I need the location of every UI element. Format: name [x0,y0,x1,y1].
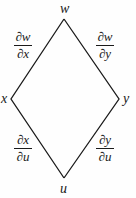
numerator: ∂w [15,30,30,43]
edge-label-dw-dx: ∂w ∂x [14,30,32,60]
denominator: ∂u [99,150,112,163]
node-w: w [60,2,69,16]
edge-label-dy-du: ∂y ∂u [96,133,114,163]
node-x: x [1,92,7,106]
denominator: ∂y [99,47,111,60]
edge-label-dx-du: ∂x ∂u [14,133,32,163]
numerator: ∂x [17,133,29,146]
node-u: u [60,182,67,196]
denominator: ∂x [17,47,29,60]
numerator: ∂w [97,30,112,43]
numerator: ∂y [99,133,111,146]
edge-label-dw-dy: ∂w ∂y [96,30,114,60]
denominator: ∂u [17,150,30,163]
node-y: y [123,92,129,106]
